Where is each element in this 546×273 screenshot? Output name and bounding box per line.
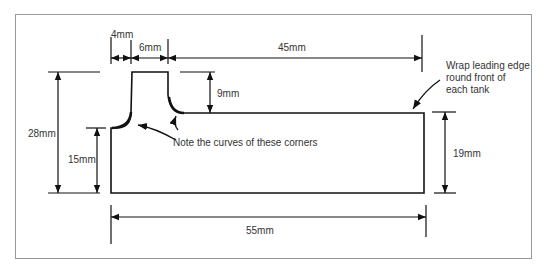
left-corner-curve	[112, 112, 131, 128]
top-dimensions	[111, 35, 422, 72]
note-wrap-line2: round front of	[446, 72, 505, 83]
overall-height-dimension	[48, 72, 100, 193]
label-6mm: 6mm	[139, 42, 161, 53]
label-15mm: 15mm	[68, 154, 96, 165]
template-outline	[111, 72, 424, 193]
label-28mm: 28mm	[28, 128, 56, 139]
right-corner-curve	[169, 97, 184, 113]
note-wrap-line3: each tank	[446, 84, 489, 95]
label-19mm: 19mm	[453, 148, 481, 159]
label-9mm: 9mm	[217, 88, 239, 99]
curves-leader-left	[138, 125, 176, 140]
label-45mm: 45mm	[278, 42, 306, 53]
leader-arrows	[138, 80, 440, 140]
tab-height-dimension	[180, 72, 215, 113]
note-curves: Note the curves of these corners	[173, 137, 318, 148]
label-4mm: 4mm	[111, 29, 133, 40]
wrap-leader	[413, 80, 440, 109]
note-wrap-line1: Wrap leading edge	[446, 60, 530, 71]
label-55mm: 55mm	[246, 225, 274, 236]
curves-leader-right	[175, 116, 178, 130]
